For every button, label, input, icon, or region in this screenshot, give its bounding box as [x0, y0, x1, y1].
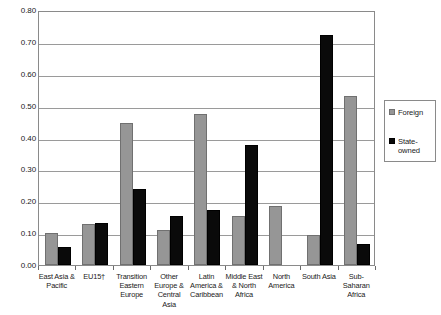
bar-chart: 0.800.700.600.500.400.300.200.100.00 Eas… — [0, 0, 441, 315]
bar-state-owned — [245, 145, 258, 265]
y-axis-tick-label: 0.30 — [2, 166, 36, 174]
legend-label: Foreign — [398, 108, 423, 117]
category-label-line: America — [259, 281, 304, 290]
legend-entry-state-owned: State-owned — [389, 137, 420, 155]
bar-group — [339, 12, 376, 265]
bar-foreign — [157, 230, 170, 265]
bar-group — [264, 12, 301, 265]
y-axis-labels: 0.800.700.600.500.400.300.200.100.00 — [0, 0, 36, 315]
x-axis-tick — [75, 266, 76, 270]
y-axis-tick-label: 0.50 — [2, 103, 36, 111]
x-axis-tick — [38, 266, 39, 270]
legend-label-line: Foreign — [398, 108, 423, 117]
bar-group — [301, 12, 338, 265]
x-axis-tick — [113, 266, 114, 270]
bar-foreign — [194, 114, 207, 265]
bar-state-owned — [95, 223, 108, 265]
x-axis-tick — [300, 266, 301, 270]
y-axis-tick-label: 0.40 — [2, 135, 36, 143]
bar-group — [39, 12, 76, 265]
y-axis-tick-label: 0.70 — [2, 39, 36, 47]
x-axis-tick — [263, 266, 264, 270]
x-axis-tick — [338, 266, 339, 270]
category-label-line: Sub- — [334, 272, 379, 281]
chart-legend: ForeignState-owned — [384, 100, 436, 162]
bar-group — [226, 12, 263, 265]
bar-state-owned — [170, 216, 183, 265]
bar-foreign — [344, 96, 357, 265]
bar-group — [151, 12, 188, 265]
x-axis-tick — [150, 266, 151, 270]
bar-foreign — [82, 224, 95, 265]
x-axis-tick — [188, 266, 189, 270]
category-label-line: Africa — [221, 290, 266, 299]
bar-state-owned — [357, 244, 370, 265]
y-axis-tick-label: 0.10 — [2, 230, 36, 238]
legend-swatch-icon — [389, 138, 395, 144]
category-label-line: Saharan — [334, 281, 379, 290]
y-axis-tick-label: 0.80 — [2, 7, 36, 15]
bar-state-owned — [207, 210, 220, 265]
legend-label: State-owned — [398, 137, 420, 155]
x-axis-category-labels: East Asia &PacificEU15†TransitionEastern… — [38, 272, 375, 315]
category-label-line: Asia — [146, 300, 191, 309]
plot-area — [38, 11, 375, 266]
bar-state-owned — [133, 189, 146, 266]
bar-foreign — [307, 235, 320, 265]
legend-swatch-icon — [389, 109, 395, 115]
bar-foreign — [45, 233, 58, 265]
bar-foreign — [120, 123, 133, 265]
category-label-line: Pacific — [34, 281, 79, 290]
legend-entry-foreign: Foreign — [389, 108, 423, 117]
bar-state-owned — [58, 247, 71, 265]
bar-group — [114, 12, 151, 265]
bar-foreign — [269, 206, 282, 265]
x-axis-tick — [225, 266, 226, 270]
category-label-line: Africa — [334, 290, 379, 299]
bar-group — [189, 12, 226, 265]
y-axis-tick-label: 0.60 — [2, 71, 36, 79]
y-axis-tick-label: 0.20 — [2, 198, 36, 206]
x-axis-tick — [375, 266, 376, 270]
bar-state-owned — [320, 35, 333, 265]
x-axis-category-label: Sub-SaharanAfrica — [334, 272, 379, 300]
legend-label-line: State- — [398, 137, 420, 146]
y-axis-tick-label: 0.00 — [2, 262, 36, 270]
bar-foreign — [232, 216, 245, 265]
bar-group — [76, 12, 113, 265]
legend-label-line: owned — [398, 146, 420, 155]
